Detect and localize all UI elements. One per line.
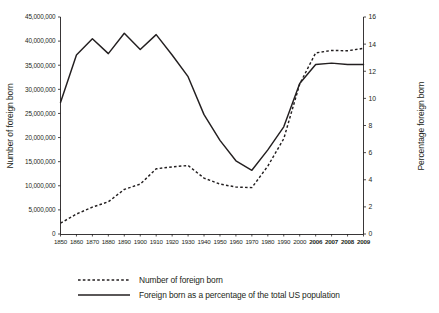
- y-axis-left-tick-label: 45,000,000: [25, 13, 56, 20]
- y-axis-right-tick-label: 8: [369, 122, 373, 129]
- series-number-foreign-born: [61, 48, 364, 223]
- y-axis-right-tick-label: 6: [369, 149, 373, 156]
- y-axis-left-tick-label: 35,000,000: [25, 62, 56, 69]
- y-axis-right-tick-label: 16: [369, 13, 377, 20]
- y-axis-left-tick-label: 15,000,000: [25, 158, 56, 165]
- x-axis-tick-labels: 1850186018701880189019001910192019301940…: [54, 238, 371, 245]
- foreign-born-line-chart: 05,000,00010,000,00015,000,00020,000,000…: [0, 0, 439, 313]
- x-axis-tick-label: 2007: [325, 238, 339, 245]
- plot-area: [61, 33, 364, 223]
- legend-label: Number of foreign born: [139, 275, 223, 285]
- x-axis-tick-label: 1890: [118, 238, 132, 245]
- y-axis-right-tick-label: 0: [369, 230, 373, 237]
- x-axis-tick-label: 1880: [102, 238, 116, 245]
- y-axis-left: 05,000,00010,000,00015,000,00020,000,000…: [5, 13, 61, 237]
- x-axis-tick-label: 1980: [261, 238, 275, 245]
- y-axis-left-tick-label: 40,000,000: [25, 37, 56, 44]
- x-axis-tick-label: 2000: [293, 238, 307, 245]
- y-axis-left-tick-label: 10,000,000: [25, 182, 56, 189]
- x-axis-tick-label: 1860: [70, 238, 84, 245]
- y-axis-right-tick-labels: 0246810121416: [369, 13, 377, 237]
- y-axis-right-tick-label: 2: [369, 203, 373, 210]
- y-axis-right-title: Percentage foreign born: [416, 81, 426, 170]
- y-axis-right-tick-label: 10: [369, 95, 377, 102]
- y-axis-left-tick-label: 20,000,000: [25, 134, 56, 141]
- y-axis-left-title: Number of foreign born: [5, 83, 15, 169]
- y-axis-left-tick-label: 25,000,000: [25, 110, 56, 117]
- y-axis-right-tick-label: 14: [369, 41, 377, 48]
- x-axis-tick-label: 1910: [150, 238, 164, 245]
- y-axis-right-tick-label: 12: [369, 68, 377, 75]
- y-axis-left-tick-labels: 05,000,00010,000,00015,000,00020,000,000…: [25, 13, 56, 237]
- x-axis-tick-label: 1940: [198, 238, 212, 245]
- chart-container: 05,000,00010,000,00015,000,00020,000,000…: [0, 0, 439, 313]
- y-axis-left-tick-label: 0: [52, 230, 56, 237]
- x-axis-tick-label: 1900: [134, 238, 148, 245]
- x-axis-tick-label: 1930: [182, 238, 196, 245]
- x-axis-tick-label: 2008: [341, 238, 355, 245]
- x-axis-tick-label: 1920: [166, 238, 180, 245]
- x-axis-tick-label: 1990: [277, 238, 291, 245]
- chart-legend: Number of foreign bornForeign born as a …: [78, 275, 340, 300]
- x-axis-tick-label: 2006: [309, 238, 323, 245]
- x-axis-tick-label: 1970: [245, 238, 259, 245]
- y-axis-right: 0246810121416 Percentage foreign born: [364, 13, 427, 237]
- series-percentage-foreign-born: [61, 33, 364, 170]
- x-axis-tick-label: 1870: [86, 238, 100, 245]
- x-axis: 1850186018701880189019001910192019301940…: [54, 234, 371, 245]
- y-axis-right-tick-label: 4: [369, 176, 373, 183]
- x-axis-tick-label: 1850: [54, 238, 68, 245]
- y-axis-left-tick-label: 5,000,000: [28, 206, 56, 213]
- x-axis-tick-label: 2009: [357, 238, 371, 245]
- y-axis-left-tick-label: 30,000,000: [25, 86, 56, 93]
- x-axis-tick-label: 1960: [229, 238, 243, 245]
- x-axis-tick-label: 1950: [213, 238, 227, 245]
- legend-label: Foreign born as a percentage of the tota…: [139, 290, 340, 300]
